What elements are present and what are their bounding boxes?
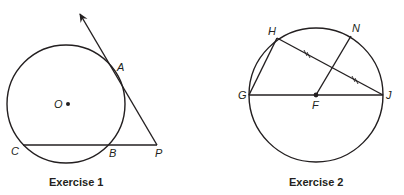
label-h: H [268,25,276,37]
label-f: F [312,99,320,111]
center-point-o [66,102,70,106]
figure-exercise-1: O A B C P Exercise 1 [7,14,163,188]
center-point-f [314,93,319,98]
label-g: G [238,89,247,101]
label-j: J [385,89,392,101]
figure-exercise-2: H N G F J Exercise 2 [238,22,392,188]
label-n: N [352,22,360,34]
tangent-ray-pa [80,14,157,145]
label-a: A [116,61,124,73]
chord-gh [249,38,277,95]
exercise-diagrams: O A B C P Exercise 1 H N G F J Exercise … [0,0,404,195]
caption-exercise-2: Exercise 2 [289,176,343,188]
label-b: B [109,147,116,159]
caption-exercise-1: Exercise 1 [49,176,103,188]
radius-fn [316,36,351,95]
label-o: O [54,98,63,110]
label-c: C [11,145,19,157]
label-p: P [155,147,163,159]
chord-hj [277,38,383,95]
